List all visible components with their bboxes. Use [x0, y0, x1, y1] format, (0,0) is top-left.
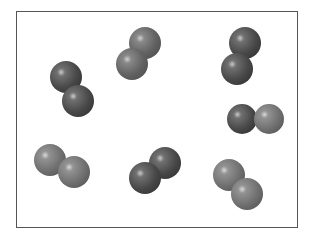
atom-2: [221, 53, 253, 85]
atom-2: [129, 162, 161, 194]
atom-1: [227, 104, 257, 134]
molecule-5: [34, 144, 90, 188]
atom-2: [116, 48, 148, 80]
atom-2: [254, 104, 284, 134]
molecule-scene: [0, 0, 309, 247]
molecule-7: [213, 159, 263, 210]
molecule-1: [50, 61, 94, 117]
molecule-4: [227, 104, 284, 134]
molecule-6: [129, 147, 181, 194]
atom-2: [62, 85, 94, 117]
atom-2: [58, 156, 90, 188]
molecule-2: [116, 27, 161, 80]
atom-2: [231, 178, 263, 210]
molecule-3: [221, 27, 261, 85]
molecules-group: [34, 27, 284, 210]
